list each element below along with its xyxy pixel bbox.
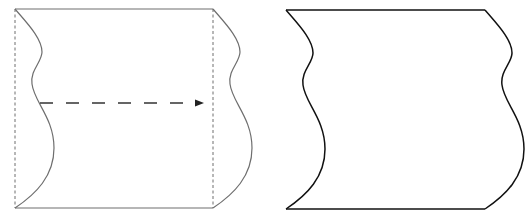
wavy-right-edge [485, 10, 524, 209]
wavy-left-edge [15, 9, 54, 208]
right-panel-resulting-shape [286, 10, 524, 209]
translation-arrow-head [195, 100, 204, 107]
translation-diagram [0, 0, 525, 220]
left-panel-original-shape [15, 9, 252, 208]
wavy-left-edge [286, 10, 325, 209]
wavy-right-edge [213, 9, 252, 208]
